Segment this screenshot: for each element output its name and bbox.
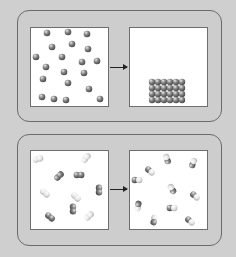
lattice-atom: [179, 97, 185, 103]
lattice-atom: [167, 85, 173, 91]
lattice-atom: [161, 79, 167, 85]
atom: [44, 30, 51, 37]
lattice-atom: [179, 79, 185, 85]
atom: [51, 96, 58, 103]
atom: [79, 59, 86, 66]
atom: [94, 58, 101, 65]
molecule: [189, 190, 201, 202]
lattice-atom: [155, 79, 161, 85]
molecule: [134, 200, 142, 212]
lattice-atom: [149, 91, 155, 97]
lattice-atom: [161, 91, 167, 97]
molecule: [184, 215, 196, 227]
atom: [84, 31, 91, 38]
gas-atoms: [33, 29, 104, 104]
molecule: [32, 155, 44, 164]
reactant-molecules: [32, 152, 102, 223]
lattice-atom: [161, 97, 167, 103]
lattice-atom: [173, 97, 179, 103]
molecule: [167, 205, 178, 211]
molecule: [83, 210, 95, 222]
lattice-atom: [155, 97, 161, 103]
molecule: [167, 183, 178, 196]
molecule: [53, 170, 65, 182]
lattice-atom: [155, 91, 161, 97]
atom: [85, 46, 92, 53]
lattice-atom: [167, 79, 173, 85]
lattice-atom: [149, 85, 155, 91]
atom: [49, 44, 56, 51]
atom: [81, 70, 88, 77]
lattice-atom: [149, 79, 155, 85]
atom: [39, 94, 46, 101]
atom: [78, 172, 84, 178]
atom: [69, 41, 76, 48]
molecule: [39, 187, 51, 199]
atom: [70, 208, 76, 214]
molecule: [150, 214, 158, 226]
molecule: [74, 172, 85, 178]
atom: [43, 64, 50, 71]
particles-layer: [0, 0, 236, 257]
lattice-atom: [161, 85, 167, 91]
atom: [63, 97, 70, 104]
atom: [61, 69, 68, 76]
lattice-atom: [155, 85, 161, 91]
atom: [65, 80, 72, 87]
lattice-atom: [179, 91, 185, 97]
lattice-atom: [173, 85, 179, 91]
molecule: [132, 177, 143, 183]
atom: [171, 205, 177, 211]
atom: [33, 54, 40, 61]
atom: [59, 54, 66, 61]
atom: [96, 189, 102, 195]
atom: [136, 177, 142, 183]
molecule: [162, 153, 172, 165]
molecule: [96, 185, 102, 196]
molecule: [70, 191, 82, 203]
molecule: [70, 204, 76, 215]
atom: [40, 76, 47, 83]
molecule: [144, 165, 156, 177]
lattice-atom: [167, 91, 173, 97]
atom: [65, 29, 72, 36]
molecule: [44, 211, 56, 223]
atom: [86, 86, 93, 93]
lattice-atom: [173, 79, 179, 85]
solid-lattice: [149, 79, 185, 103]
product-molecules: [132, 153, 202, 227]
molecule: [80, 152, 92, 164]
lattice-atom: [179, 85, 185, 91]
lattice-atom: [173, 91, 179, 97]
atom: [97, 96, 104, 103]
lattice-atom: [167, 97, 173, 103]
molecule: [188, 157, 198, 169]
lattice-atom: [149, 97, 155, 103]
